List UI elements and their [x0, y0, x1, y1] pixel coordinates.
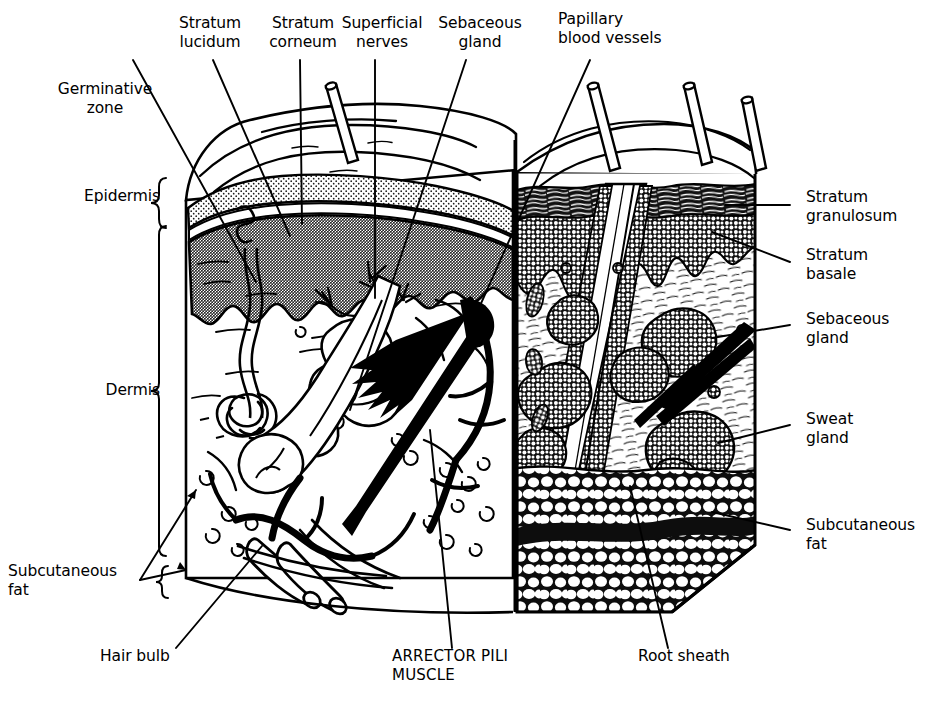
left-schematic-block [186, 104, 516, 617]
label-hair-bulb: Hair bulb [100, 647, 230, 666]
label-superficial-nerves: Superficial nerves [330, 14, 434, 52]
label-epidermis: Epidermis [20, 187, 160, 206]
label-sebaceous-gland-top: Sebaceous gland [430, 14, 530, 52]
label-arrector-pili-muscle: ARRECTOR PILI MUSCLE [392, 647, 572, 685]
label-root-sheath: Root sheath [638, 647, 778, 666]
label-stratum-granulosum: Stratum granulosum [806, 188, 936, 226]
label-sebaceous-gland-right: Sebaceous gland [806, 310, 936, 348]
label-subcutaneous-fat-right: Subcutaneous fat [806, 516, 938, 554]
label-germinative-zone: Germinative zone [45, 80, 165, 118]
skin-cross-section-figure: Germinative zone Stratum lucidum Stratum… [0, 0, 938, 715]
label-stratum-basale: Stratum basale [806, 246, 936, 284]
right-histological-block [510, 121, 757, 612]
label-dermis: Dermis [20, 381, 160, 400]
leader-hair-bulb [176, 546, 262, 648]
label-papillary-blood-vessels: Papillary blood vessels [558, 10, 718, 48]
label-sweat-gland: Sweat gland [806, 410, 936, 448]
label-subcutaneous-fat-left: Subcutaneous fat [8, 562, 158, 600]
